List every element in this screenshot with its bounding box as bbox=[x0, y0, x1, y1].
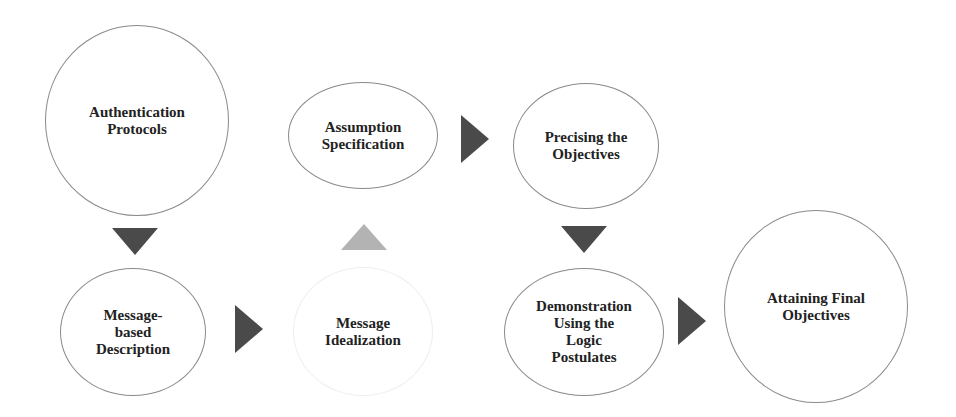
node-demonstration-logic-postulates: Demonstration Using the Logic Postulates bbox=[504, 268, 664, 396]
node-authentication-protocols: Authentication Protocols bbox=[45, 25, 229, 216]
node-label: Authentication Protocols bbox=[89, 104, 185, 138]
node-message-idealization: Message Idealization bbox=[293, 267, 433, 396]
node-label: Precising the Objectives bbox=[545, 129, 628, 163]
arrow-right-icon bbox=[235, 305, 263, 353]
node-label: Attaining Final Objectives bbox=[767, 290, 865, 324]
node-label: Demonstration Using the Logic Postulates bbox=[536, 298, 632, 366]
process-diagram: Authentication Protocols Message- based … bbox=[0, 0, 956, 417]
arrow-down-icon bbox=[112, 228, 158, 255]
arrow-down-icon bbox=[561, 226, 607, 253]
node-assumption-specification: Assumption Specification bbox=[288, 82, 438, 189]
node-label: Message Idealization bbox=[325, 315, 401, 349]
node-label: Message- based Description bbox=[96, 307, 170, 358]
node-message-based-description: Message- based Description bbox=[60, 268, 206, 396]
node-attaining-final-objectives: Attaining Final Objectives bbox=[724, 210, 908, 403]
arrow-right-icon bbox=[678, 297, 706, 345]
node-label: Assumption Specification bbox=[322, 119, 405, 153]
node-precising-the-objectives: Precising the Objectives bbox=[513, 83, 659, 209]
arrow-up-icon bbox=[341, 224, 387, 250]
arrow-right-icon bbox=[461, 115, 489, 163]
